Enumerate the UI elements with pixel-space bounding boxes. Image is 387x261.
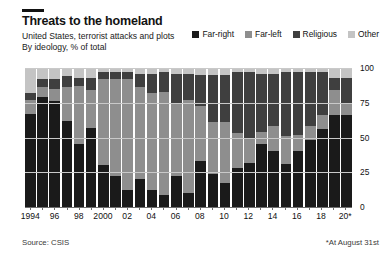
bar-segment (37, 68, 48, 79)
x-tick (163, 207, 164, 210)
bar-segment (317, 72, 328, 115)
bar-segment (341, 68, 352, 78)
x-tick-label: 04 (147, 211, 157, 221)
bar-segment (268, 151, 279, 207)
bar-segment (159, 195, 170, 208)
x-tick (212, 207, 213, 210)
bar-segment (268, 74, 279, 127)
x-tick (272, 207, 273, 210)
bar-segment (135, 74, 146, 88)
bar-segment (86, 128, 97, 207)
bar-segment (195, 75, 206, 106)
plot-wrapper: 0255075100 19949698200002040608101214161… (0, 0, 387, 261)
bar-segment (110, 79, 121, 176)
bar-segment (62, 68, 73, 76)
plot-area (25, 68, 352, 207)
x-tick (103, 207, 104, 210)
bar-segment (135, 87, 146, 179)
bar-segment (74, 78, 85, 86)
bar-segment (98, 79, 109, 165)
bar-segment (195, 68, 206, 75)
bar-segment (208, 75, 219, 122)
footnote: *At August 31st (326, 238, 379, 247)
bar-segment (208, 122, 219, 173)
bar-segment (220, 68, 231, 75)
x-tick (30, 207, 31, 210)
x-tick (115, 207, 116, 210)
bar-segment (147, 74, 158, 93)
bar-segment (74, 86, 85, 144)
x-tick-label: 96 (50, 211, 60, 221)
x-tick (236, 207, 237, 210)
x-tick (188, 207, 189, 210)
y-tick-label: 25 (360, 168, 369, 177)
bar-segment (171, 103, 182, 177)
bar-segment (122, 72, 133, 79)
bar-segment (317, 129, 328, 207)
bar-segment (49, 101, 60, 207)
bar-segment (183, 193, 194, 207)
x-tick (91, 207, 92, 210)
gridline (25, 103, 352, 104)
x-tick-label: 2000 (93, 211, 112, 221)
bar-segment (171, 74, 182, 103)
bar-segment (281, 136, 292, 164)
bar-segment (317, 115, 328, 129)
x-tick-label: 14 (268, 211, 278, 221)
bar-segment (244, 72, 255, 137)
x-tick-label: 20* (339, 211, 352, 221)
x-tick (345, 207, 346, 210)
x-tick (54, 207, 55, 210)
bar-segment (110, 72, 121, 79)
bar-segment (208, 68, 219, 75)
x-tick (151, 207, 152, 210)
bar-segment (86, 78, 97, 91)
bar-segment (268, 126, 279, 151)
bar-segment (86, 68, 97, 78)
bar-segment (25, 114, 36, 207)
x-tick-label: 10 (219, 211, 229, 221)
bar-segment (281, 72, 292, 136)
x-tick (67, 207, 68, 210)
x-tick (42, 207, 43, 210)
x-tick (200, 207, 201, 210)
bar-segment (159, 92, 170, 195)
x-tick (127, 207, 128, 210)
bar-segment (110, 176, 121, 207)
bar-segment (341, 103, 352, 116)
bar-segment (62, 87, 73, 120)
bar-segment (305, 140, 316, 207)
y-axis: 0255075100 (356, 68, 386, 207)
bar-segment (208, 174, 219, 207)
gridline (25, 68, 352, 69)
x-axis: 19949698200002040608101214161820* (25, 207, 352, 223)
bar-segment (49, 89, 60, 102)
bar-segment (37, 97, 48, 207)
bar-segment (195, 106, 206, 162)
bar-segment (74, 68, 85, 78)
bar-segment (256, 144, 267, 207)
bar-segment (329, 68, 340, 78)
x-tick (176, 207, 177, 210)
x-tick (321, 207, 322, 210)
bar-segment (244, 138, 255, 163)
x-tick-label: 12 (243, 211, 253, 221)
x-tick (333, 207, 334, 210)
x-tick-label: 02 (122, 211, 132, 221)
bar-segment (37, 79, 48, 87)
bar-segment (305, 72, 316, 126)
bar-segment (25, 68, 36, 93)
bar-segment (147, 190, 158, 207)
y-tick-label: 50 (360, 133, 369, 142)
bar-segment (220, 183, 231, 207)
bar-segment (62, 121, 73, 207)
bar-segment (159, 72, 170, 91)
bar-segment (62, 76, 73, 87)
bar-segment (49, 68, 60, 79)
bar-segment (49, 79, 60, 89)
bar-segment (74, 144, 85, 207)
bar-segment (147, 93, 158, 190)
x-tick (79, 207, 80, 210)
y-tick-label: 75 (360, 98, 369, 107)
x-tick (224, 207, 225, 210)
